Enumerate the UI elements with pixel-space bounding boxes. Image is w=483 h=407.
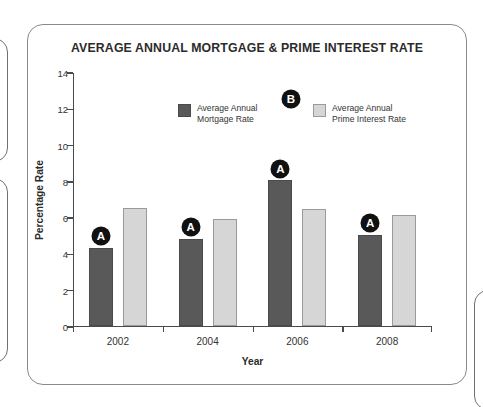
legend-swatch-icon-prime-interest-rate: [313, 104, 326, 117]
bar: [268, 180, 292, 325]
y-axis-tick-label: 8: [63, 176, 68, 187]
annotation-badge-b: B: [282, 90, 301, 109]
annotation-badge-a: A: [181, 217, 200, 236]
y-axis-tick-label: 10: [57, 140, 68, 151]
x-axis-tick: [163, 327, 164, 332]
annotation-badge-a: A: [91, 226, 110, 245]
adjacent-page-card-top-left: [0, 38, 8, 162]
bar: [179, 239, 203, 326]
x-axis-category-label: 2004: [197, 336, 219, 347]
legend-label-mortgage-rate: Average Annual Mortgage Rate: [197, 103, 258, 124]
chart-title: AVERAGE ANNUAL MORTGAGE & PRIME INTEREST…: [28, 41, 466, 55]
y-axis-label: Percentage Rate: [34, 160, 45, 240]
y-axis-tick-label: 14: [57, 68, 68, 79]
chart-legend: Average Annual Mortgage Rate Average Ann…: [73, 91, 432, 137]
adjacent-page-card-bottom-right: [474, 290, 483, 407]
x-axis-category-label: 2006: [286, 336, 308, 347]
legend-item-mortgage-rate: Average Annual Mortgage Rate: [178, 103, 258, 124]
bar: [89, 248, 113, 326]
x-axis-tick: [73, 327, 74, 332]
y-axis-tick-label: 6: [63, 213, 68, 224]
y-axis-tick-label: 2: [63, 285, 68, 296]
y-axis-tick-label: 12: [57, 104, 68, 115]
bar: [213, 219, 237, 326]
screenshot-root: AVERAGE ANNUAL MORTGAGE & PRIME INTEREST…: [0, 0, 483, 407]
bar: [123, 208, 147, 326]
bar: [392, 215, 416, 326]
annotation-badge-a: A: [271, 159, 290, 178]
adjacent-page-card-bottom-left: [0, 178, 8, 363]
legend-label-prime-interest-rate: Average Annual Prime Interest Rate: [332, 103, 406, 124]
x-axis-tick: [431, 327, 432, 332]
x-axis-category-label: 2002: [107, 336, 129, 347]
y-axis-tick-label: 4: [63, 249, 68, 260]
x-axis-tick: [253, 327, 254, 332]
bar: [358, 235, 382, 326]
x-axis-label: Year: [242, 356, 264, 367]
annotation-badge-a: A: [361, 214, 380, 233]
legend-swatch-icon-mortgage-rate: [178, 104, 191, 117]
x-axis-category-label: 2008: [376, 336, 398, 347]
y-axis-tick-label: 0: [63, 322, 68, 333]
bar: [302, 209, 326, 326]
legend-item-prime-interest-rate: Average Annual Prime Interest Rate: [313, 103, 406, 124]
chart-card: AVERAGE ANNUAL MORTGAGE & PRIME INTEREST…: [27, 24, 467, 385]
x-axis-tick: [342, 327, 343, 332]
